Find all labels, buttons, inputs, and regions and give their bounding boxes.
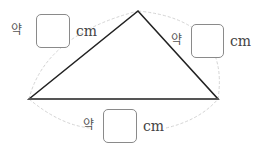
unit-label-right: cm xyxy=(230,34,251,48)
answer-box-bottom[interactable] xyxy=(103,109,137,143)
approx-label-right: 약 xyxy=(171,34,182,46)
approx-label-left: 약 xyxy=(11,24,22,36)
answer-box-right[interactable] xyxy=(191,24,224,58)
answer-box-left[interactable] xyxy=(36,14,70,48)
unit-label-left: cm xyxy=(76,24,97,38)
unit-label-bottom: cm xyxy=(143,119,164,133)
approx-label-bottom: 약 xyxy=(83,119,94,131)
